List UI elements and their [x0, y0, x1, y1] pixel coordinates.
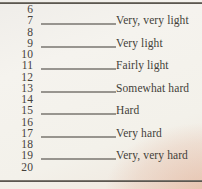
ruled-fill-line [41, 45, 116, 47]
scale-number: 7 [0, 15, 33, 26]
scale-label: Very, very hard [116, 150, 188, 161]
scale-row: 20 [0, 162, 202, 173]
ruled-fill-line [41, 158, 116, 160]
scale-row: 7 Very, very light [0, 15, 202, 26]
ruled-fill-line [41, 135, 116, 137]
scale-label: Very hard [116, 128, 162, 139]
ruled-fill-line [41, 113, 116, 115]
ruled-fill-line [41, 90, 116, 92]
scale-number: 20 [0, 162, 33, 173]
scale-number: 19 [0, 150, 33, 161]
scale-row: 11 Fairly light [0, 60, 202, 71]
bottom-rule [0, 180, 202, 182]
scale-label: Hard [116, 105, 139, 116]
scale-label: Fairly light [116, 60, 169, 71]
scale-row: 15 Hard [0, 105, 202, 116]
scale-number: 15 [0, 105, 33, 116]
scale-label: Very light [116, 38, 163, 49]
scale-label: Somewhat hard [116, 83, 189, 94]
borg-scale-table: 6 7 Very, very light 8 9 Very light 10 1… [0, 4, 202, 173]
scale-row: 19 Very, very hard [0, 150, 202, 161]
ruled-fill-line [41, 23, 116, 25]
scanned-page: 6 7 Very, very light 8 9 Very light 10 1… [0, 0, 202, 189]
ruled-fill-line [41, 68, 116, 70]
scale-label: Very, very light [116, 15, 189, 26]
scale-number: 11 [0, 60, 33, 71]
